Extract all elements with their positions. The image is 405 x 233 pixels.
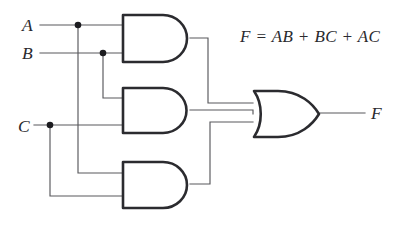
boolean-equation: F = AB + BC + AC <box>239 27 381 46</box>
input-label-a: A <box>21 15 33 35</box>
wire-and3-output-to-or <box>190 122 253 184</box>
wire-input-a-branch-to-and3 <box>78 25 122 173</box>
and-gate-2-body[interactable] <box>123 88 187 133</box>
label-layer: A B C F F = AB + BC + AC <box>18 15 382 136</box>
junction-dot-c <box>47 122 54 129</box>
or-gate-body[interactable] <box>254 91 319 137</box>
circuit-svg-canvas: A B C F F = AB + BC + AC <box>0 0 405 233</box>
wire-and2-output-to-or <box>190 110 253 114</box>
junction-dot-a <box>75 22 82 29</box>
input-label-c: C <box>18 116 30 136</box>
junction-layer <box>47 22 107 129</box>
wire-and1-output-to-or <box>190 38 253 103</box>
input-label-b: B <box>22 43 33 63</box>
wire-input-b-branch-to-and2 <box>103 53 122 98</box>
logic-circuit-diagram: A B C F F = AB + BC + AC <box>0 0 405 233</box>
junction-dot-b <box>100 50 107 57</box>
output-label-f: F <box>370 103 382 123</box>
and-gate-1-body[interactable] <box>123 15 187 62</box>
and-gate-3-body[interactable] <box>123 162 187 208</box>
wire-input-c-branch-to-and3 <box>50 125 122 196</box>
